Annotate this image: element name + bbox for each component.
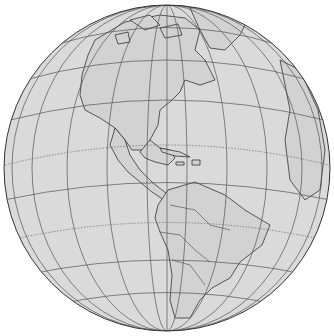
globe-svg xyxy=(0,0,334,336)
globe-map xyxy=(0,0,334,336)
